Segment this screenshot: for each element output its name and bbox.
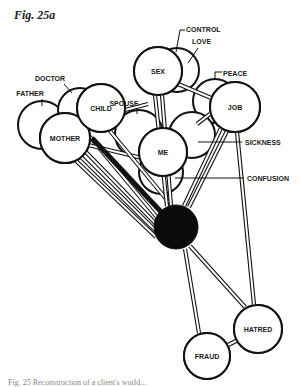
label-sickness: SICKNESS [245,139,281,146]
link-15 [185,249,199,333]
label-confusion: CONFUSION [247,175,289,182]
label-me: ME [158,149,169,156]
label-control: CONTROL [186,26,221,33]
label-hatred: HATRED [244,326,273,333]
label-peace: PEACE [223,70,247,77]
label-mother: MOTHER [50,135,80,142]
figure-caption: Fig. 25 Reconstruction of a client's wor… [8,379,305,387]
label-doctor: DOCTOR [35,75,65,82]
link-14 [237,132,254,305]
label-sex: SEX [151,68,165,75]
label-fraud: FRAUD [195,353,220,360]
label-father: FATHER [16,90,43,97]
relationship-network-diagram: FATHERDOCTORMOTHERCHILDLOVECONTROLSEXSPO… [0,0,305,387]
label-love: LOVE [192,38,211,45]
node-center-self [154,205,198,249]
label-spouse: SPOUSE [109,100,139,107]
label-job: JOB [228,104,242,111]
link-16 [190,246,245,307]
